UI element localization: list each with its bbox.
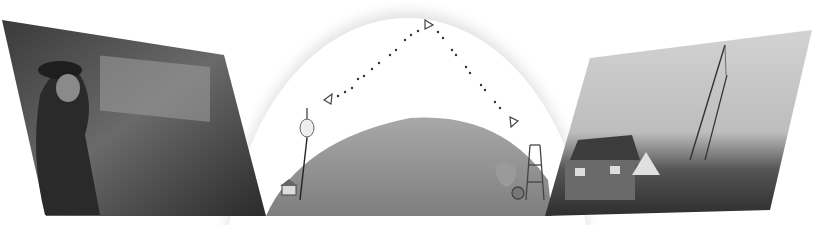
signal-marker-right-icon (510, 117, 518, 127)
left-photo (2, 20, 266, 216)
signal-path (337, 30, 501, 109)
illustration-scene (0, 0, 817, 225)
signal-marker-left-icon (324, 94, 332, 104)
composite-graphic (0, 0, 817, 225)
right-photo (545, 30, 812, 216)
signal-marker-top-icon (425, 20, 433, 29)
